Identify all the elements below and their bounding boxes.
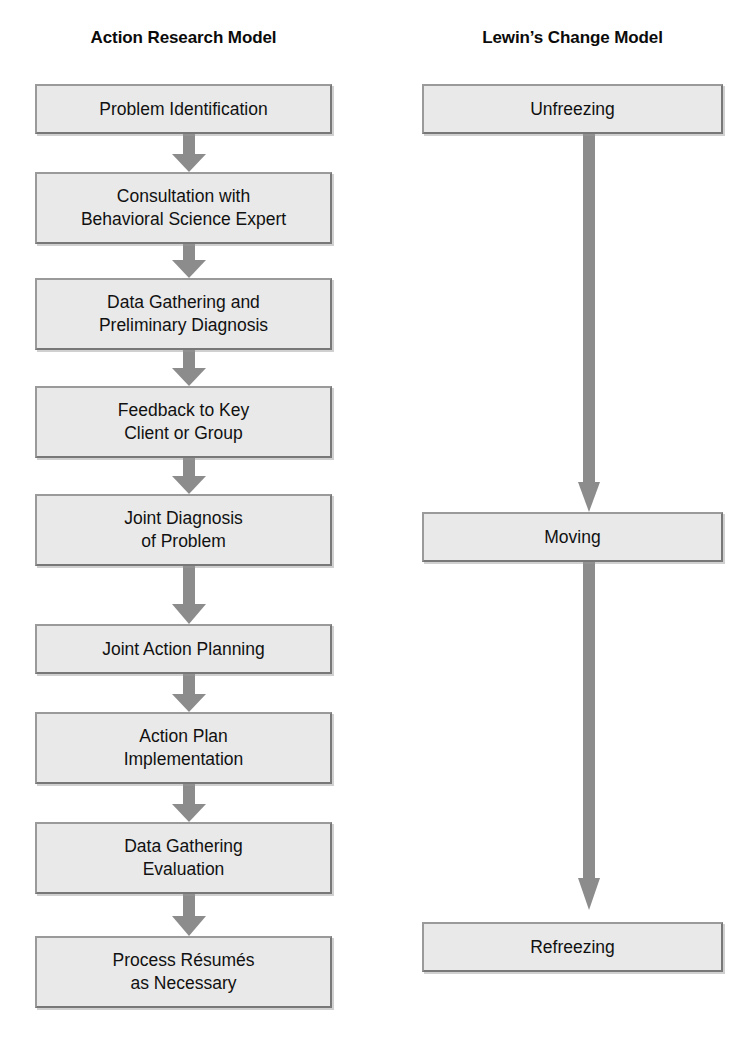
flow-box-process-resumes[interactable]: Process Résumés as Necessary (35, 936, 332, 1008)
flow-box-label: Joint Action Planning (96, 638, 270, 661)
flow-box-label: Problem Identification (93, 98, 273, 121)
connector-arrow-1 (172, 134, 206, 172)
flowchart-diagram: Action Research Model Lewin’s Change Mod… (0, 0, 753, 1039)
flow-box-data-gathering-evaluation[interactable]: Data Gathering Evaluation (35, 822, 332, 894)
flow-box-joint-action-planning[interactable]: Joint Action Planning (35, 624, 332, 674)
connector-arrow-4 (172, 458, 206, 494)
flow-box-label: Action Plan Implementation (118, 725, 250, 771)
connector-arrow-5 (172, 566, 206, 624)
connector-arrow-6 (172, 674, 206, 712)
flow-box-label: Unfreezing (524, 98, 621, 121)
flow-box-label: Moving (538, 526, 606, 549)
flow-box-joint-diagnosis[interactable]: Joint Diagnosis of Problem (35, 494, 332, 566)
flow-box-unfreezing[interactable]: Unfreezing (422, 84, 723, 134)
connector-arrow-8 (172, 894, 206, 936)
flow-box-label: Consultation with Behavioral Science Exp… (75, 185, 292, 231)
connector-arrow-2 (172, 244, 206, 278)
flow-box-refreezing[interactable]: Refreezing (422, 922, 723, 972)
flow-box-label: Data Gathering Evaluation (118, 835, 249, 881)
flow-box-problem-identification[interactable]: Problem Identification (35, 84, 332, 134)
flow-box-consultation[interactable]: Consultation with Behavioral Science Exp… (35, 172, 332, 244)
flow-box-label: Process Résumés as Necessary (107, 949, 261, 995)
connector-arrow-3 (172, 350, 206, 386)
flow-box-label: Joint Diagnosis of Problem (118, 507, 249, 553)
flow-box-moving[interactable]: Moving (422, 512, 723, 562)
flow-box-label: Feedback to Key Client or Group (112, 399, 255, 445)
right-column-title: Lewin’s Change Model (422, 28, 723, 48)
flow-box-label: Data Gathering and Preliminary Diagnosis (93, 291, 274, 337)
flow-box-feedback-key-client[interactable]: Feedback to Key Client or Group (35, 386, 332, 458)
left-column-title: Action Research Model (35, 28, 332, 48)
connector-arrow-7 (172, 784, 206, 822)
flow-box-data-gathering-diagnosis[interactable]: Data Gathering and Preliminary Diagnosis (35, 278, 332, 350)
flow-box-action-plan-implementation[interactable]: Action Plan Implementation (35, 712, 332, 784)
flow-box-label: Refreezing (524, 936, 621, 959)
